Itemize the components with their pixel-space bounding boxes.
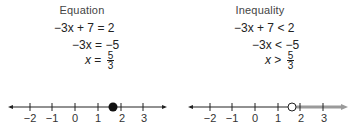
tick-label: 0 xyxy=(72,112,78,124)
inequality-panel: Inequality −3x + 7 < 2 −3x < −5 x > 5 3 … xyxy=(180,0,360,127)
arrow-right-icon xyxy=(341,104,348,110)
equation-panel: Equation −3x + 7 = 2 −3x = −5 x = 5 3 −2… xyxy=(0,0,180,127)
tick-label: 3 xyxy=(321,112,327,124)
inequality-number-line: −2 −1 0 1 2 3 xyxy=(180,0,360,127)
arrow-right-icon xyxy=(162,105,167,109)
tick-label: 0 xyxy=(252,112,258,124)
arrow-left-icon xyxy=(188,105,193,109)
tick-label: 2 xyxy=(119,112,125,124)
arrow-left-icon xyxy=(8,105,13,109)
tick-label: −1 xyxy=(46,112,59,124)
tick-label: −2 xyxy=(24,112,37,124)
tick-label: 1 xyxy=(275,112,281,124)
tick-label: 2 xyxy=(298,112,304,124)
tick-label: 3 xyxy=(141,112,147,124)
tick-label: −1 xyxy=(226,112,239,124)
equation-number-line: −2 −1 0 1 2 3 xyxy=(0,0,180,127)
closed-dot-icon xyxy=(109,103,118,112)
tick-label: 1 xyxy=(95,112,101,124)
open-circle-icon xyxy=(288,103,296,111)
tick-label: −2 xyxy=(204,112,217,124)
